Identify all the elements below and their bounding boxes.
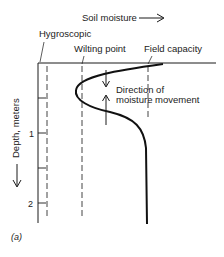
y-axis-label: Depth, meters bbox=[10, 98, 21, 158]
annotation-line2: moisture movement bbox=[116, 94, 200, 105]
x-axis-label: Soil moisture bbox=[82, 12, 137, 23]
wilting-point-label: Wilting point bbox=[74, 43, 126, 54]
tick-label-2: 2 bbox=[28, 199, 33, 209]
hygroscopic-label: Hygroscopic bbox=[39, 28, 92, 39]
hygroscopic-leader bbox=[40, 42, 44, 62]
y-axis-arrow-icon bbox=[13, 164, 21, 187]
field-capacity-label: Field capacity bbox=[144, 43, 202, 54]
x-axis-arrow-icon bbox=[139, 14, 164, 22]
tick-label-1: 1 bbox=[29, 129, 34, 139]
y-ticks bbox=[38, 98, 46, 203]
soil-moisture-diagram: Soil moisture Hygroscopic Wilting point … bbox=[0, 0, 224, 257]
figure-label: (a) bbox=[11, 232, 22, 242]
